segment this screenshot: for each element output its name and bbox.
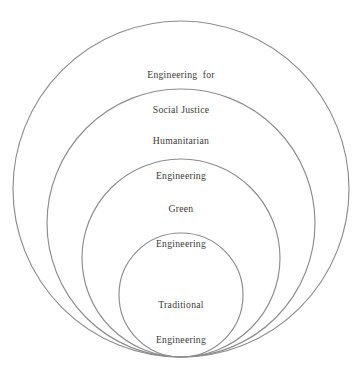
circle-humanitarian-engineering	[47, 89, 315, 357]
circle-green-engineering	[82, 159, 280, 357]
circles-canvas	[0, 0, 362, 371]
circle-engineering-for-social-justice	[13, 21, 349, 357]
circle-traditional-engineering	[119, 233, 243, 357]
nested-circles-diagram: Engineering for Social Justice Humanitar…	[0, 0, 362, 371]
